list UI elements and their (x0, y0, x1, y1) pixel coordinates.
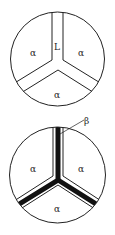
top-grain-diagram: α α α L (0, 0, 115, 106)
bottom-label-bottom-alpha: α (54, 204, 60, 214)
top-label-right-alpha: α (78, 48, 84, 58)
bottom-grain-diagram: β α α α (0, 110, 115, 223)
bottom-label-right-alpha: α (78, 164, 84, 174)
bottom-label-left-alpha: α (30, 164, 36, 174)
microstructure-diagram: α α α L β α α α (0, 0, 115, 235)
top-label-left-alpha: α (30, 48, 36, 58)
beta-phase-band (0, 110, 115, 216)
bottom-label-beta: β (84, 116, 89, 126)
top-label-bottom-alpha: α (54, 90, 60, 100)
top-label-liquid: L (54, 42, 60, 52)
